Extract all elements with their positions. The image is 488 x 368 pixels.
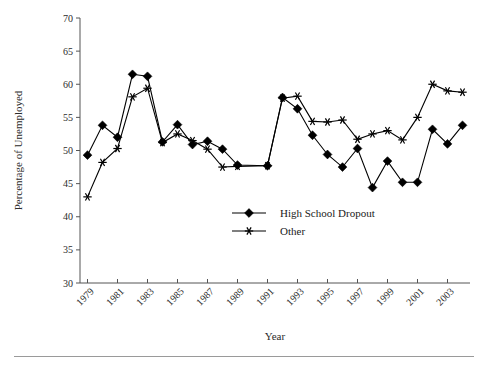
x-tick-label: 1987 [194, 286, 216, 308]
x-tick-label: 1993 [284, 286, 306, 308]
diamond-marker [383, 157, 392, 166]
x-tick-label: 1981 [104, 286, 126, 308]
x-tick-label: 1997 [344, 286, 366, 308]
diamond-marker [368, 183, 377, 192]
star-marker [293, 93, 301, 100]
diamond-marker [413, 178, 422, 187]
star-marker [383, 127, 391, 134]
x-tick-label: 1983 [134, 286, 156, 308]
chart-figure: 7065605550454035301979198119831985198719… [0, 0, 488, 368]
y-axis-title: Percentage of Unemployed [12, 90, 24, 210]
star-marker [413, 114, 421, 121]
star-marker [338, 116, 346, 123]
star-marker [398, 136, 406, 143]
y-tick-label: 35 [63, 244, 73, 255]
diamond-marker [203, 137, 212, 146]
star-marker [173, 130, 181, 137]
y-tick-label: 60 [63, 79, 73, 90]
star-marker [458, 89, 466, 96]
series-line-2 [88, 84, 463, 197]
x-tick-label: 1989 [224, 286, 246, 308]
star-marker [353, 136, 361, 143]
y-tick-label: 55 [63, 112, 73, 123]
x-tick-label: 1985 [164, 286, 186, 308]
y-tick-label: 45 [63, 178, 73, 189]
diamond-marker [128, 70, 137, 79]
x-tick-label: 1991 [254, 286, 276, 308]
y-tick-label: 40 [63, 211, 73, 222]
star-marker [323, 118, 331, 125]
diamond-marker [83, 151, 92, 160]
y-tick-label: 65 [63, 46, 73, 57]
star-marker [368, 130, 376, 137]
x-tick-label: 1979 [74, 286, 96, 308]
diamond-marker [293, 104, 302, 113]
x-axis-title: Year [265, 330, 286, 342]
star-marker [128, 93, 136, 100]
diamond-marker [143, 72, 152, 81]
legend-entry-dropout-label: High School Dropout [280, 207, 375, 219]
x-tick-label: 2001 [404, 286, 426, 308]
y-tick-label: 50 [63, 145, 73, 156]
star-marker [308, 118, 316, 125]
y-tick-label: 70 [63, 13, 73, 24]
diamond-marker [398, 178, 407, 187]
x-tick-label: 1995 [314, 286, 336, 308]
x-tick-label: 1999 [374, 286, 396, 308]
legend-entry-other-label: Other [280, 225, 305, 237]
footer-divider [14, 356, 474, 357]
star-marker [443, 87, 451, 94]
star-marker [428, 81, 436, 88]
star-marker [83, 193, 91, 200]
y-tick-label: 30 [63, 278, 73, 289]
chart-canvas: 7065605550454035301979198119831985198719… [0, 0, 488, 368]
star-marker [203, 146, 211, 153]
star-marker [245, 227, 253, 234]
x-tick-label: 2003 [434, 286, 456, 308]
diamond-marker [245, 209, 254, 218]
star-marker [218, 163, 226, 170]
